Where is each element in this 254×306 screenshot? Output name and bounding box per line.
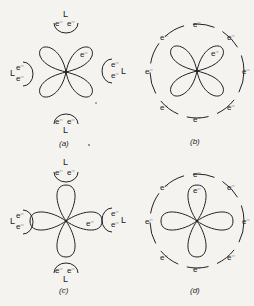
ligand-electron: e⁻ xyxy=(111,60,119,69)
ligand-right: e⁻ e⁻ L xyxy=(102,208,126,232)
shell-electron: e⁻ xyxy=(193,115,201,124)
ligand-bottom: e⁻ e⁻ L xyxy=(54,114,78,135)
ligand-electron: e⁻ xyxy=(111,220,119,229)
ligand-label: L xyxy=(63,125,68,135)
shell-electron: e⁻ xyxy=(145,217,153,226)
shell-electron: e⁻ xyxy=(193,20,201,29)
panel-d: e⁻ e⁻ e⁻ e⁻ e⁻ e⁻ e⁻ e⁻ e⁻ (d) xyxy=(145,170,250,295)
ligand-label: L xyxy=(121,215,126,225)
ligand-top: L e⁻ e⁻ xyxy=(54,9,78,33)
ligand-label: L xyxy=(121,66,126,76)
ligand-label: L xyxy=(10,68,15,78)
lobe-electron: e⁻ xyxy=(80,50,88,59)
caption-d: (d) xyxy=(190,286,200,295)
ligand-electron: e⁻ xyxy=(16,222,24,231)
ligand-top: L e⁻ e⁻ xyxy=(54,157,78,182)
ligand-right: e⁻ e⁻ L xyxy=(102,59,126,83)
ligand-label: L xyxy=(63,157,68,167)
ligand-electron: e⁻ xyxy=(16,74,24,83)
ligand-electron: e⁻ xyxy=(67,168,75,177)
panel-b: e⁻ e⁻ e⁻ e⁻ e⁻ e⁻ e⁻ e⁻ e⁻ (b) xyxy=(145,20,250,146)
ligand-electron: e⁻ xyxy=(16,63,24,72)
orbital-lobes-axial xyxy=(161,185,233,257)
panel-a: e⁻ L e⁻ e⁻ L e⁻ e⁻ e⁻ e⁻ L e⁻ e⁻ L xyxy=(10,9,126,148)
crystal-field-diagram: e⁻ L e⁻ e⁻ L e⁻ e⁻ e⁻ e⁻ L e⁻ e⁻ L xyxy=(0,0,254,306)
shell-electron: e⁻ xyxy=(227,253,235,262)
ligand-electron: e⁻ xyxy=(16,211,24,220)
caption-a: (a) xyxy=(59,139,69,148)
shell-electron: e⁻ xyxy=(242,67,250,76)
shell-electron: e⁻ xyxy=(160,33,168,42)
ligand-electron: e⁻ xyxy=(67,19,75,28)
ligand-label: L xyxy=(63,9,68,19)
shell-electron: e⁻ xyxy=(193,265,201,274)
shell-electron: e⁻ xyxy=(242,217,250,226)
lobe-electron: e⁻ xyxy=(193,186,201,195)
ligand-electron: e⁻ xyxy=(111,71,119,80)
ligand-label: L xyxy=(10,216,15,226)
shell-electron: e⁻ xyxy=(193,170,201,179)
ligand-bottom: e⁻ e⁻ L xyxy=(54,263,78,284)
lobe-electron: e⁻ xyxy=(211,49,219,58)
ligand-electron: e⁻ xyxy=(111,209,119,218)
shell-electron: e⁻ xyxy=(227,183,235,192)
shell-electron: e⁻ xyxy=(227,103,235,112)
ligand-electron: e⁻ xyxy=(55,19,63,28)
shell-electron: e⁻ xyxy=(160,103,168,112)
ligand-left: L e⁻ e⁻ xyxy=(10,62,33,86)
caption-c: (c) xyxy=(59,286,69,295)
caption-b: (b) xyxy=(190,137,200,146)
shell-electron: e⁻ xyxy=(227,33,235,42)
shell-electron: e⁻ xyxy=(145,67,153,76)
ligand-electron: e⁻ xyxy=(67,117,75,126)
ligand-electron: e⁻ xyxy=(55,168,63,177)
ligand-label: L xyxy=(63,274,68,284)
lobe-electron: e⁻ xyxy=(86,219,94,228)
shell-electron: e⁻ xyxy=(160,253,168,262)
shell-electron: e⁻ xyxy=(160,183,168,192)
ligand-electron: e⁻ xyxy=(67,266,75,275)
panel-c: e⁻ L e⁻ e⁻ L e⁻ e⁻ e⁻ e⁻ L e⁻ e⁻ L (c) xyxy=(10,157,126,295)
